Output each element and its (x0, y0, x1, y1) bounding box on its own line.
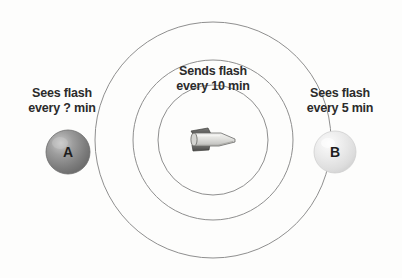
observer-b-label-line1: Sees flash (288, 86, 392, 101)
diagram-svg (0, 0, 402, 278)
emitter-label: Sends flash every 10 min (141, 64, 285, 93)
observer-a-label-line1: Sees flash (10, 86, 114, 101)
observer-a-label-line2: every ? min (10, 101, 114, 116)
observer-a-letter: A (46, 144, 90, 160)
observer-b-letter: B (313, 144, 357, 160)
rocket-icon (191, 128, 235, 151)
observer-a-label: Sees flash every ? min (10, 86, 114, 115)
diagram-canvas: Sees flash every ? min Sends flash every… (0, 0, 402, 278)
observer-b-label: Sees flash every 5 min (288, 86, 392, 115)
observer-b-label-line2: every 5 min (288, 101, 392, 116)
emitter-label-line1: Sends flash (141, 64, 285, 79)
emitter-label-line2: every 10 min (141, 79, 285, 94)
